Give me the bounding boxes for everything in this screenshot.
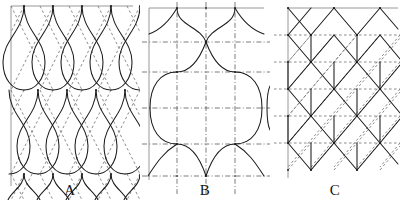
panel-b-neighbor-fragments	[148, 8, 270, 176]
panel-b: B	[140, 0, 270, 200]
panel-b-drawing	[140, 0, 270, 200]
panel-b-grid	[142, 2, 270, 194]
panel-b-frame	[149, 8, 264, 180]
panel-a: A	[0, 0, 140, 200]
panel-c-drawing	[270, 0, 400, 200]
panel-a-dashed-lattice	[11, 6, 140, 200]
figure-root: A	[0, 0, 400, 200]
panel-c-frame	[288, 8, 398, 178]
panel-c-label: C	[270, 183, 400, 198]
panel-a-ogee-curves	[3, 6, 140, 200]
panel-c-dashed-lattice	[274, 35, 400, 170]
panel-a-drawing	[0, 0, 140, 200]
panel-a-label: A	[0, 183, 140, 198]
panel-b-label: B	[140, 183, 270, 198]
panel-c: C	[270, 0, 400, 200]
